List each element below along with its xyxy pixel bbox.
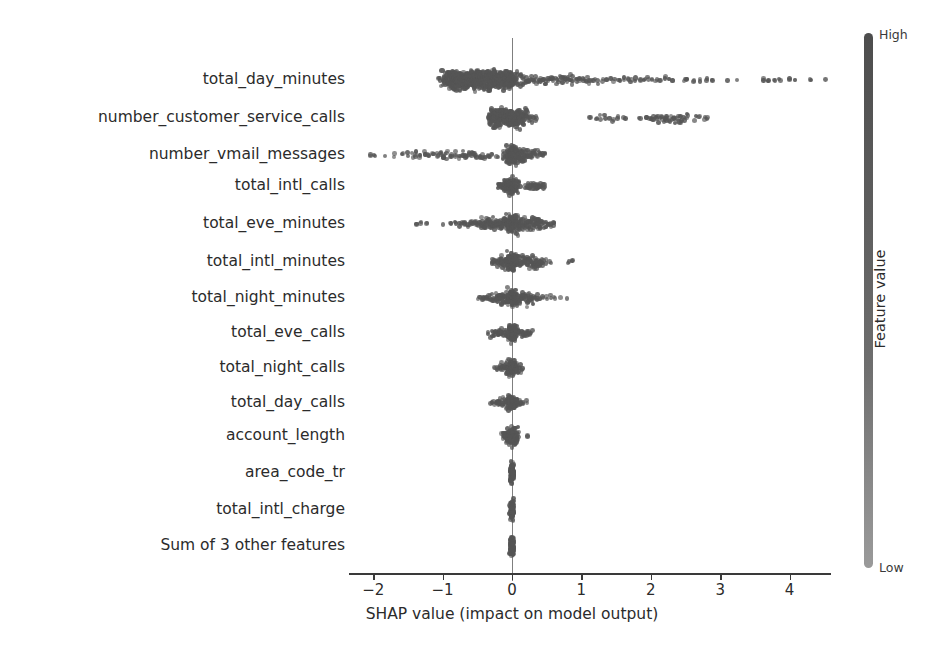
x-axis-line bbox=[349, 573, 831, 575]
beeswarm-point bbox=[392, 155, 396, 159]
beeswarm-point bbox=[766, 78, 771, 83]
beeswarm-point bbox=[439, 150, 443, 154]
x-tick-mark bbox=[512, 575, 513, 580]
beeswarm-point bbox=[787, 78, 791, 82]
beeswarm-point bbox=[521, 122, 526, 127]
beeswarm-point bbox=[793, 78, 797, 82]
x-tick-label: 2 bbox=[646, 581, 656, 599]
beeswarm-point bbox=[565, 296, 570, 301]
beeswarm-point bbox=[516, 425, 520, 429]
beeswarm-point bbox=[570, 258, 575, 263]
beeswarm-point bbox=[529, 331, 533, 335]
beeswarm-point bbox=[558, 295, 563, 300]
beeswarm-point bbox=[638, 116, 643, 121]
beeswarm-point bbox=[670, 78, 675, 83]
beeswarm-point bbox=[705, 117, 709, 121]
beeswarm-point bbox=[510, 471, 514, 475]
beeswarm-point bbox=[533, 118, 538, 123]
beeswarm-point bbox=[696, 115, 700, 119]
x-axis-title: SHAP value (impact on model output) bbox=[252, 605, 772, 623]
x-tick-mark bbox=[790, 575, 791, 580]
shap-beeswarm-plot: total_day_minutesnumber_customer_service… bbox=[0, 0, 945, 654]
beeswarm-point bbox=[383, 154, 387, 158]
beeswarm-point bbox=[516, 233, 520, 237]
beeswarm-point bbox=[511, 536, 516, 541]
beeswarm-point bbox=[778, 78, 783, 83]
beeswarm-point bbox=[516, 191, 520, 195]
beeswarm-point bbox=[517, 430, 521, 434]
beeswarm-point bbox=[522, 159, 527, 164]
beeswarm-point bbox=[686, 113, 690, 117]
beeswarm-point bbox=[496, 155, 500, 159]
beeswarm-point bbox=[430, 151, 435, 156]
x-tick-label: 1 bbox=[577, 581, 587, 599]
x-tick-label: 3 bbox=[715, 581, 725, 599]
colorbar-title: Feature value bbox=[872, 244, 888, 354]
x-tick-label: 4 bbox=[785, 581, 795, 599]
x-tick-mark bbox=[720, 575, 721, 580]
beeswarm-point bbox=[628, 80, 632, 84]
x-tick-mark bbox=[581, 575, 582, 580]
beeswarm-point bbox=[761, 76, 766, 81]
beeswarm-point bbox=[511, 463, 516, 468]
beeswarm-point bbox=[525, 305, 529, 309]
beeswarm-point bbox=[373, 154, 378, 159]
x-tick-label: −2 bbox=[362, 581, 384, 599]
beeswarm-point bbox=[461, 149, 465, 153]
beeswarm-point bbox=[772, 78, 776, 82]
beeswarm-points-layer bbox=[0, 0, 945, 654]
beeswarm-point bbox=[531, 302, 535, 306]
beeswarm-point bbox=[510, 481, 514, 485]
beeswarm-point bbox=[518, 127, 523, 132]
x-tick-mark bbox=[373, 575, 374, 580]
x-tick-label: −1 bbox=[432, 581, 454, 599]
beeswarm-point bbox=[543, 152, 547, 156]
beeswarm-point bbox=[823, 77, 828, 82]
beeswarm-point bbox=[710, 78, 715, 83]
beeswarm-point bbox=[645, 75, 649, 79]
beeswarm-point bbox=[517, 181, 521, 185]
beeswarm-point bbox=[705, 76, 710, 81]
beeswarm-point bbox=[510, 502, 515, 507]
beeswarm-point bbox=[488, 155, 492, 159]
x-tick-label: 0 bbox=[507, 581, 517, 599]
beeswarm-point bbox=[542, 185, 546, 189]
beeswarm-point bbox=[518, 301, 523, 306]
beeswarm-point bbox=[512, 552, 516, 556]
colorbar-low-label: Low bbox=[879, 560, 904, 575]
beeswarm-point bbox=[547, 259, 551, 263]
beeswarm-point bbox=[809, 78, 813, 82]
beeswarm-point bbox=[511, 510, 516, 515]
beeswarm-point bbox=[685, 77, 689, 81]
beeswarm-point bbox=[616, 114, 621, 119]
beeswarm-point bbox=[691, 79, 696, 84]
x-tick-mark bbox=[651, 575, 652, 580]
beeswarm-point bbox=[725, 78, 730, 83]
beeswarm-point bbox=[418, 153, 422, 157]
x-tick-mark bbox=[443, 575, 444, 580]
beeswarm-point bbox=[520, 366, 525, 371]
beeswarm-point bbox=[735, 78, 739, 82]
colorbar-high-label: High bbox=[879, 27, 908, 42]
beeswarm-point bbox=[525, 401, 529, 405]
beeswarm-point bbox=[441, 222, 446, 227]
beeswarm-point bbox=[400, 152, 404, 156]
beeswarm-point bbox=[633, 79, 637, 83]
